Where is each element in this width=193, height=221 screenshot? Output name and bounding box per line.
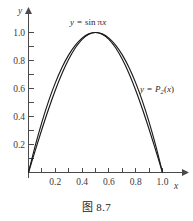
x-tick-label-1: 0.4 bbox=[76, 177, 88, 187]
curve-annotations: y=sinπx y=P2(x) bbox=[69, 17, 174, 95]
x-tick-labels: 0.2 0.4 0.6 0.8 1.0 bbox=[49, 177, 168, 187]
x-axis-label: x bbox=[173, 181, 179, 191]
y-tick-labels: 0.2 0.4 0.6 0.8 1.0 bbox=[13, 28, 25, 150]
y-axis-label: y bbox=[17, 6, 23, 16]
sine-vs-parabola-plot: 0.2 0.4 0.6 0.8 1.0 0.2 0.4 0.6 0.8 1.0 … bbox=[0, 0, 193, 200]
x-axis-arrowhead bbox=[182, 169, 189, 176]
figure-caption: 图 8.7 bbox=[0, 198, 193, 214]
y-tick-label-2: 0.6 bbox=[13, 84, 25, 94]
y-tick-label-3: 0.8 bbox=[13, 56, 25, 66]
y-tick-marks bbox=[29, 33, 34, 159]
x-tick-label-4: 1.0 bbox=[157, 177, 169, 187]
x-tick-label-3: 0.8 bbox=[130, 177, 142, 187]
y-axis-arrowhead bbox=[25, 7, 32, 14]
x-tick-label-0: 0.2 bbox=[49, 177, 61, 187]
y-tick-label-4: 1.0 bbox=[13, 28, 25, 38]
x-tick-label-2: 0.6 bbox=[103, 177, 115, 187]
curve-p2-x bbox=[29, 33, 163, 173]
poly-curve-label: y=P2(x) bbox=[139, 84, 174, 95]
x-tick-marks bbox=[42, 168, 163, 173]
curves-group bbox=[29, 33, 163, 173]
y-tick-label-0: 0.2 bbox=[13, 140, 25, 150]
y-tick-label-1: 0.4 bbox=[13, 112, 25, 122]
sine-curve-label: y=sinπx bbox=[69, 17, 106, 27]
figure-container: 0.2 0.4 0.6 0.8 1.0 0.2 0.4 0.6 0.8 1.0 … bbox=[0, 0, 193, 221]
